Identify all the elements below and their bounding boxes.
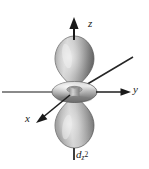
upper-lobe bbox=[55, 36, 94, 89]
caption-superscript: 2 bbox=[84, 150, 88, 159]
central-torus bbox=[52, 82, 97, 103]
upper-lobe-highlight bbox=[55, 36, 94, 89]
orbital-caption: dz2 bbox=[76, 149, 88, 162]
y-axis-label: y bbox=[133, 84, 138, 95]
z-axis-arrowhead bbox=[69, 17, 78, 29]
y-axis-arrowhead bbox=[121, 88, 132, 96]
orbital-figure: z y x dz2 bbox=[0, 0, 149, 169]
x-axis-label: x bbox=[25, 113, 30, 124]
orbital-diagram bbox=[0, 0, 149, 169]
z-axis-label: z bbox=[88, 18, 92, 29]
